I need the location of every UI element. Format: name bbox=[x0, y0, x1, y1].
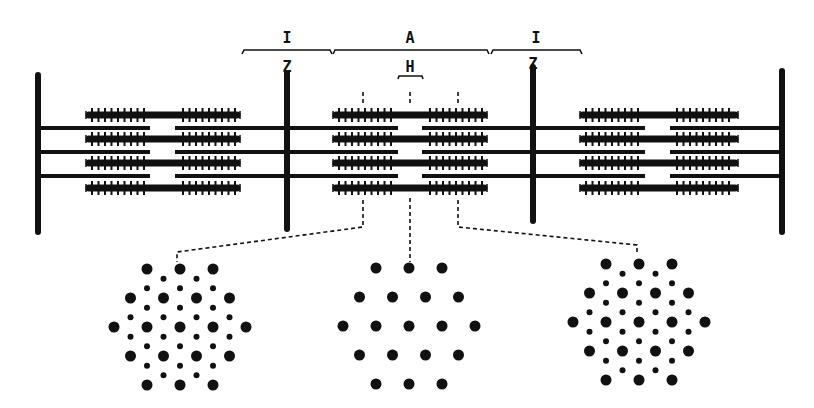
thin-filament-dot bbox=[653, 367, 659, 373]
thin-filament-dot bbox=[653, 271, 659, 277]
thick-filament-dot bbox=[142, 264, 153, 275]
thin-filament-dot bbox=[620, 367, 626, 373]
thick-filament-dot bbox=[404, 321, 415, 332]
thick-filament-dot bbox=[387, 350, 398, 361]
thin-filament-dot bbox=[161, 372, 167, 378]
thick-filament-dot bbox=[191, 293, 202, 304]
lattice-h-zone bbox=[338, 263, 481, 390]
thick-filament-dot bbox=[568, 317, 579, 328]
thin-filament-dot bbox=[620, 309, 626, 315]
thick-filament-dot bbox=[175, 322, 186, 333]
thick-filament bbox=[333, 181, 487, 195]
thick-filament-dot bbox=[175, 380, 186, 391]
thick-filament-dot bbox=[175, 264, 186, 275]
diagram-canvas: I A I Z Z H bbox=[0, 0, 814, 408]
thin-filament-dot bbox=[161, 276, 167, 282]
thick-filament-dot bbox=[437, 379, 448, 390]
thin-filament-dot bbox=[636, 358, 642, 364]
thick-filament-dot bbox=[437, 321, 448, 332]
thick-filament bbox=[333, 156, 487, 170]
thin-filament-dot bbox=[587, 309, 593, 315]
thick-filament-dot bbox=[371, 379, 382, 390]
thick-filament bbox=[580, 132, 738, 146]
thick-filament-dot bbox=[650, 346, 661, 357]
thick-filament-dot bbox=[437, 263, 448, 274]
thick-filament bbox=[333, 108, 487, 122]
thin-filament-dot bbox=[636, 338, 642, 344]
filaments bbox=[38, 108, 782, 195]
thick-filament-dot bbox=[404, 263, 415, 274]
thick-filament bbox=[86, 132, 240, 146]
thick-filament-dot bbox=[387, 292, 398, 303]
thick-filament-dot bbox=[142, 322, 153, 333]
thin-filament-dot bbox=[177, 305, 183, 311]
thick-filament-dot bbox=[617, 346, 628, 357]
thin-filament-dot bbox=[686, 329, 692, 335]
thin-filament-dot bbox=[210, 305, 216, 311]
thin-filament-dot bbox=[669, 280, 675, 286]
thick-filament-dot bbox=[667, 259, 678, 270]
thick-filament-dot bbox=[338, 321, 349, 332]
thick-filament-dot bbox=[617, 288, 628, 299]
thick-filament-dot bbox=[125, 351, 136, 362]
thick-filament-dot bbox=[700, 317, 711, 328]
thin-filament-dot bbox=[194, 276, 200, 282]
thick-filament-dot bbox=[650, 288, 661, 299]
thick-filament-dot bbox=[109, 322, 120, 333]
connector-overlap-region-left bbox=[177, 200, 363, 262]
thick-filament-dot bbox=[371, 321, 382, 332]
thick-filament-dot bbox=[453, 292, 464, 303]
a-band-label: A bbox=[405, 29, 414, 47]
thin-filament-dot bbox=[653, 309, 659, 315]
sarcomere-diagram: I A I Z Z H bbox=[0, 0, 814, 408]
thin-filament-dot bbox=[603, 280, 609, 286]
thick-filament-dot bbox=[158, 351, 169, 362]
thick-filament-dot bbox=[241, 322, 252, 333]
thin-filament-dot bbox=[636, 280, 642, 286]
thick-filament-dot bbox=[634, 259, 645, 270]
thick-filament-dot bbox=[601, 375, 612, 386]
thick-filament-dot bbox=[404, 379, 415, 390]
thin-filament-dot bbox=[210, 363, 216, 369]
thick-filament-dot bbox=[420, 292, 431, 303]
thick-filament bbox=[580, 108, 738, 122]
thin-filament-dot bbox=[636, 300, 642, 306]
thick-filament-dot bbox=[634, 317, 645, 328]
thin-filament-dot bbox=[227, 334, 233, 340]
thick-filament-dot bbox=[158, 293, 169, 304]
thick-filament-dot bbox=[420, 350, 431, 361]
thin-filament-dot bbox=[587, 329, 593, 335]
thin-filament-dot bbox=[669, 338, 675, 344]
thick-filament bbox=[580, 156, 738, 170]
thin-filament-dot bbox=[177, 285, 183, 291]
thin-filament-dot bbox=[653, 329, 659, 335]
i-band-bracket-left bbox=[242, 50, 332, 54]
thick-filament-dot bbox=[584, 346, 595, 357]
thin-filament-dot bbox=[603, 338, 609, 344]
thin-filament-dot bbox=[210, 285, 216, 291]
thin-filament-dot bbox=[227, 314, 233, 320]
h-zone-bracket bbox=[398, 76, 423, 79]
thin-filament-dot bbox=[620, 329, 626, 335]
thick-filament-dot bbox=[208, 380, 219, 391]
thick-filament-dot bbox=[667, 375, 678, 386]
thin-filament-dot bbox=[144, 285, 150, 291]
thick-filament-dot bbox=[683, 288, 694, 299]
thick-filament-dot bbox=[142, 380, 153, 391]
thin-filament-dot bbox=[669, 358, 675, 364]
thick-filament-dot bbox=[371, 263, 382, 274]
cross-section-lattices bbox=[109, 259, 711, 391]
a-band-bracket bbox=[333, 50, 489, 54]
thin-filament-dot bbox=[128, 334, 134, 340]
thin-filament-dot bbox=[128, 314, 134, 320]
lattice-overlap-left bbox=[109, 264, 252, 391]
lattice-overlap-right bbox=[568, 259, 711, 386]
thick-filament-dot bbox=[224, 351, 235, 362]
thin-filament-dot bbox=[177, 343, 183, 349]
thin-filament-dot bbox=[177, 363, 183, 369]
thick-filament-dot bbox=[208, 264, 219, 275]
i-band-label-right: I bbox=[531, 29, 540, 47]
thick-filament-dot bbox=[634, 375, 645, 386]
thick-filament bbox=[333, 132, 487, 146]
thick-filament bbox=[580, 181, 738, 195]
